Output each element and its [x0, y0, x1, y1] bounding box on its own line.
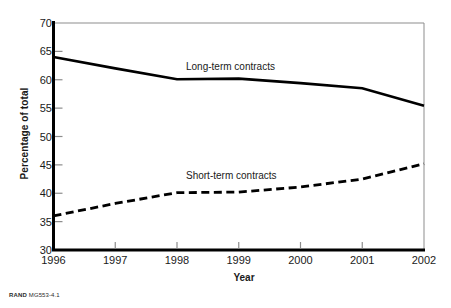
x-axis-tick-marks — [115, 242, 362, 249]
x-axis-tick-label: 1997 — [92, 254, 138, 267]
x-axis-tick-label: 2002 — [401, 254, 447, 267]
x-axis-tick-labels: 1996199719981999200020012002 — [0, 254, 451, 270]
y-axis-tick-marks — [55, 51, 63, 221]
x-axis-tick-label: 2000 — [278, 254, 324, 267]
x-axis-tick-label: 1996 — [31, 254, 77, 267]
x-axis-tick-label: 2001 — [339, 254, 385, 267]
series-label-long-term-contracts: Long-term contracts — [186, 61, 275, 73]
series-label-short-term-contracts: Short-term contracts — [186, 170, 277, 182]
x-axis-tick-label: 1998 — [154, 254, 200, 267]
figure-source-mark: RAND — [9, 292, 27, 298]
x-axis-tick-label: 1999 — [216, 254, 262, 267]
x-axis-title: Year — [56, 272, 432, 283]
figure-source-note: RAND MG553-4.1 — [9, 291, 60, 299]
chart-figure: Percentage of total 303540455055606570 L… — [0, 0, 451, 308]
figure-source-id: MG553-4.1 — [29, 292, 60, 298]
